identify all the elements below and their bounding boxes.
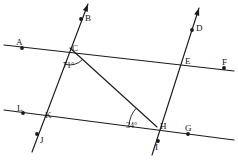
point-label-E: E: [185, 57, 191, 66]
point-dots-group: [20, 17, 226, 143]
segment-CH-diagonal: [70, 48, 157, 127]
line-AF-upper-horizontal: [4, 45, 234, 71]
point-label-L: L: [17, 104, 23, 113]
line-BJ-left-transversal: [32, 4, 88, 152]
point-label-C: C: [72, 44, 78, 53]
line-BJ-left-transversal-arrowhead: [83, 4, 88, 12]
angle-at-C-label: 71°: [63, 62, 74, 70]
line-DI-right-transversal-arrowhead: [194, 8, 199, 16]
point-label-J: J: [40, 136, 44, 145]
geometry-diagram-canvas: ABCDEFGHIJKL 71°34°: [0, 0, 238, 164]
point-label-A: A: [16, 38, 23, 47]
point-label-D: D: [196, 24, 203, 33]
point-label-H: H: [160, 122, 167, 131]
angle-at-H-label: 34°: [126, 122, 137, 130]
point-dot-D: [190, 28, 194, 32]
point-label-G: G: [185, 124, 192, 133]
point-label-F: F: [222, 58, 227, 67]
point-label-K: K: [45, 111, 52, 120]
point-dot-B: [79, 17, 83, 21]
cropped-footer-text: [0, 155, 238, 164]
point-label-B: B: [85, 14, 91, 23]
point-dot-J: [35, 132, 39, 136]
angle-arcs-group: [64, 59, 136, 124]
arrowheads-group: [83, 4, 199, 16]
point-label-I: I: [155, 143, 158, 152]
